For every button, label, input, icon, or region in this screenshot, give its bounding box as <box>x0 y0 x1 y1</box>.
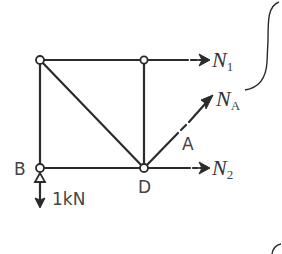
load-arrow-head <box>35 198 45 208</box>
force-label-n2: N2 <box>211 155 233 182</box>
cut-member-a <box>144 133 178 168</box>
node-label-b: B <box>14 159 26 179</box>
node-b <box>36 164 44 172</box>
node-top-mid <box>140 56 147 63</box>
support-triangle <box>35 173 45 182</box>
force-label-n1: N1 <box>211 47 233 74</box>
member-label-a: A <box>182 134 194 154</box>
curve-fragment <box>272 244 281 254</box>
force-label-na: NA <box>215 86 241 113</box>
load-label: 1kN <box>52 189 85 209</box>
truss-diagram: N1 NA N2 1kN B D A <box>0 0 282 254</box>
grouping-brace <box>245 2 279 90</box>
node-top-left <box>36 56 44 64</box>
force-arrow-n2 <box>193 162 210 174</box>
node-label-d: D <box>138 177 151 197</box>
member-diagonal <box>40 60 144 168</box>
node-d <box>140 164 148 172</box>
force-arrow-n1 <box>191 54 210 66</box>
force-arrow-na <box>181 95 213 130</box>
